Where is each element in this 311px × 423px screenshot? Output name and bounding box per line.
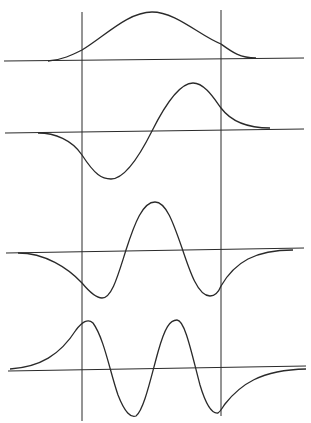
baseline-4 <box>8 366 306 371</box>
gaussian-curve <box>48 12 256 61</box>
derivative-curves-figure <box>0 0 311 423</box>
baseline-3 <box>6 248 304 253</box>
baseline-2 <box>5 129 304 133</box>
